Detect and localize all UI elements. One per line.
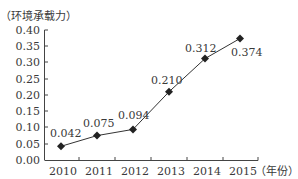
y-tick-label: 0.30 <box>4 57 40 68</box>
x-axis-title: （年份） <box>255 166 298 177</box>
data-label-2013: 0.210 <box>151 75 183 86</box>
data-label-2011: 0.075 <box>83 118 115 129</box>
x-tick-label: 2011 <box>85 166 113 177</box>
data-label-2015: 0.374 <box>231 47 263 58</box>
y-tick-label: 0.20 <box>4 90 40 101</box>
y-axis <box>45 30 49 160</box>
y-tick-label: 0.40 <box>4 25 40 36</box>
line-chart <box>0 0 298 179</box>
x-tick-label: 2015 <box>229 166 257 177</box>
marker-2010 <box>57 142 65 150</box>
y-axis-title: （环境承载力） <box>0 11 77 22</box>
y-tick-label: 0.05 <box>4 139 40 150</box>
x-tick-label: 2010 <box>49 166 77 177</box>
y-tick-label: 0.15 <box>4 106 40 117</box>
x-tick-label: 2014 <box>193 166 221 177</box>
x-tick-label: 2013 <box>157 166 185 177</box>
y-tick-label: 0.25 <box>4 74 40 85</box>
data-label-2010: 0.042 <box>50 128 82 139</box>
x-axis <box>45 157 259 161</box>
x-tick-label: 2012 <box>121 166 149 177</box>
y-tick-label: 0.10 <box>4 122 40 133</box>
data-label-2012: 0.094 <box>118 110 150 121</box>
y-tick-label: 0.35 <box>4 41 40 52</box>
marker-2011 <box>93 132 101 140</box>
y-tick-label: 0.00 <box>4 155 40 166</box>
data-label-2014: 0.312 <box>185 43 217 54</box>
marker-2015 <box>236 35 244 43</box>
